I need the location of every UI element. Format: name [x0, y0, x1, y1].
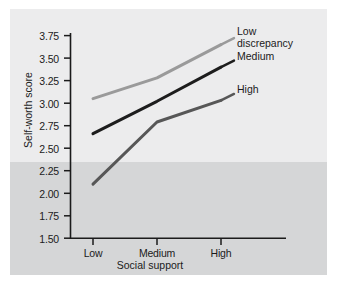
series-leader-low-discrepancy	[221, 38, 234, 45]
x-axis-ticks	[93, 238, 221, 245]
y-tick-label-1-75: 1.75	[19, 210, 59, 222]
y-tick-label-2-00: 2.00	[19, 188, 59, 200]
y-axis-title: Self-worth score	[22, 50, 34, 170]
y-axis-ticks	[64, 36, 71, 239]
x-axis-title: Social support	[50, 259, 250, 271]
x-tick-label-high: High	[186, 247, 256, 259]
series-line-high	[93, 100, 221, 184]
series-leader-medium	[221, 61, 234, 68]
x-tick-label-low: Low	[58, 247, 128, 259]
chart-figure: 3.75 3.50 3.25 3.00 2.75 2.50 2.25 2.00 …	[10, 9, 327, 275]
series-line-low-discrepancy	[93, 45, 221, 99]
series-label-low-discrepancy: Low discrepancy	[237, 26, 293, 49]
series-label-high: High	[237, 84, 259, 96]
series-leader-high	[221, 94, 234, 101]
y-tick-label-3-75: 3.75	[19, 30, 59, 42]
y-tick-label-1-50: 1.50	[19, 233, 59, 245]
series-label-medium: Medium	[237, 51, 274, 63]
x-tick-label-medium: Medium	[122, 247, 192, 259]
